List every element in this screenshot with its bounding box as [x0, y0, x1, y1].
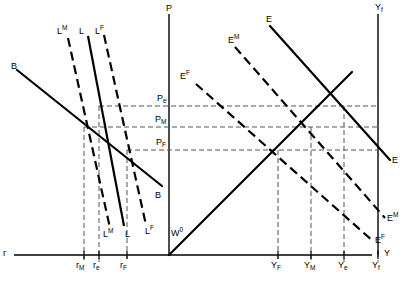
curve-label-EF-right: EF: [375, 236, 385, 245]
tick-label-YF: YF: [271, 261, 281, 270]
diagram-canvas: [0, 0, 415, 283]
curve-label-EM-right: EM: [387, 214, 398, 223]
curve-label-E-left: E: [266, 15, 272, 24]
axis-label-r: r: [3, 249, 6, 258]
tick-label-Ye: Ye: [338, 261, 348, 270]
tick-label-PM: PM: [155, 115, 166, 124]
curve-label-LF-top: LF: [95, 27, 104, 36]
curve-forty-five-line-W0: [169, 72, 352, 255]
curve-label-LM-top: LM: [57, 27, 67, 36]
tick-label-PF: PF: [156, 138, 166, 147]
curve-label-E-right: E: [392, 156, 398, 165]
tick-label-Pe: Pe: [157, 94, 167, 103]
curve-money-demand-LF: [104, 35, 146, 225]
curve-label-LF-bottom: LF: [145, 227, 154, 236]
tick-label-rF: rF: [120, 261, 127, 270]
curve-bond-B: [17, 70, 162, 186]
tick-label-rM: rM: [76, 261, 84, 270]
axis-label-P: P: [166, 4, 172, 13]
curve-expenditure-EF: [196, 84, 374, 242]
curve-label-B-bottom: B: [155, 191, 161, 200]
curve-label-L-bottom: L: [125, 230, 130, 239]
curve-label-W0: W0: [171, 229, 183, 238]
tick-label-Yf: Yf: [372, 261, 380, 270]
curve-expenditure-E: [270, 26, 390, 160]
curve-money-demand-LM: [68, 38, 110, 228]
curve-label-L-top: L: [79, 27, 84, 36]
curve-expenditure-EM: [235, 47, 385, 218]
curve-label-EM-left: EM: [228, 36, 239, 45]
curve-label-B-top: B: [11, 62, 17, 71]
curve-label-LM-bottom: LM: [103, 230, 113, 239]
economics-four-quadrant-diagram: P r Y Yf Pe PM PF rM re rF YF YM Ye Yf: [0, 0, 415, 283]
tick-label-YM: YM: [304, 261, 315, 270]
axis-label-Y: Y: [384, 249, 390, 258]
tick-label-re: re: [93, 261, 100, 270]
axis-label-Yf-vertical: Yf: [375, 3, 383, 12]
curve-label-EF-left: EF: [180, 72, 190, 81]
